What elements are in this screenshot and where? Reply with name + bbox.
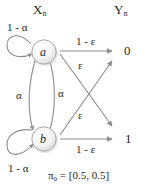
emission-label-b-to-1: 1 - ε	[76, 144, 95, 155]
edge-a-to-1	[60, 54, 112, 126]
observation-label-0: 0	[124, 44, 131, 57]
transition-label-b-to-a: α	[58, 88, 64, 99]
yn-subscript: n	[123, 9, 127, 18]
column-header-yn: Yn	[114, 3, 127, 16]
transition-label-a-to-b: α	[16, 90, 22, 101]
state-label-b: b	[40, 133, 46, 145]
pi-subscript: 0	[54, 175, 58, 183]
self-loop-a-edge	[7, 36, 32, 57]
state-label-a: a	[40, 46, 46, 58]
transition-label-self-loop-a: 1 - α	[7, 22, 27, 33]
markov-chain-diagram: Xn Yn 1 - α 1 - α α α 1 - ε ε ε 1 - ε a …	[0, 0, 145, 189]
xn-subscript: n	[42, 9, 46, 18]
initial-distribution: π0 = [0.5, 0.5]	[48, 170, 109, 181]
column-header-xn: Xn	[33, 3, 46, 16]
emission-label-a-to-1: ε	[78, 60, 83, 71]
edge-a-to-b	[29, 58, 36, 130]
edge-b-to-0	[60, 61, 112, 135]
self-loop-b-edge	[7, 130, 33, 155]
transition-label-self-loop-b: 1 - α	[8, 163, 28, 174]
edge-b-to-a	[49, 58, 54, 130]
observation-label-1: 1	[125, 132, 132, 145]
pi-symbol: π	[48, 169, 54, 181]
emission-label-b-to-0: ε	[78, 110, 83, 121]
pi-value: = [0.5, 0.5]	[60, 169, 109, 181]
emission-label-a-to-0: 1 - ε	[76, 36, 95, 47]
